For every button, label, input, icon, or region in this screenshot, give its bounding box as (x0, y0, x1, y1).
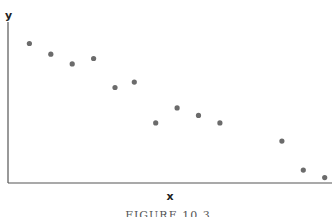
data-point (217, 120, 222, 125)
data-point (196, 113, 201, 118)
data-point (175, 105, 180, 110)
data-point (48, 52, 53, 57)
data-point (132, 80, 137, 85)
data-point (70, 61, 75, 66)
y-axis-label: y (5, 9, 12, 22)
data-point (279, 139, 284, 144)
data-points (27, 41, 328, 180)
figure-caption: FIGURE 10.3 (0, 209, 336, 217)
data-point (27, 41, 32, 46)
data-point (91, 56, 96, 61)
x-axis-label: x (166, 190, 173, 203)
scatter-chart: y x (0, 0, 336, 217)
data-point (322, 175, 327, 180)
data-point (301, 168, 306, 173)
data-point (112, 85, 117, 90)
plot-area (8, 22, 332, 183)
data-point (153, 120, 158, 125)
